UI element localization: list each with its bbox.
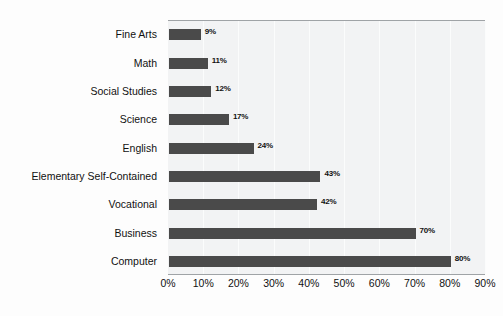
bar-row[interactable]: 24% [168, 136, 485, 162]
category-label: Math [134, 50, 157, 76]
plot-area: 9%11%12%17%24%43%42%70%80% [168, 20, 485, 275]
bar[interactable] [169, 199, 317, 210]
category-label: Business [114, 220, 157, 246]
bar-value-label: 80% [455, 254, 470, 263]
bar-row[interactable]: 80% [168, 249, 485, 275]
bar-row[interactable]: 12% [168, 79, 485, 105]
bar-value-label: 9% [205, 27, 216, 36]
x-tick-label: 70% [404, 277, 425, 289]
category-label: Science [120, 106, 157, 132]
x-tick-label: 0% [160, 277, 175, 289]
bar-row[interactable]: 43% [168, 164, 485, 190]
bar-value-label: 17% [233, 112, 248, 121]
x-tick-label: 20% [228, 277, 249, 289]
x-tick-label: 50% [334, 277, 355, 289]
x-tick-label: 90% [474, 277, 495, 289]
category-label: Fine Arts [116, 21, 157, 47]
bar[interactable] [169, 58, 208, 69]
bar-value-label: 70% [420, 226, 435, 235]
category-label: Vocational [109, 191, 157, 217]
bar-value-label: 12% [215, 84, 230, 93]
category-axis-labels: Fine ArtsMathSocial StudiesScienceEnglis… [0, 20, 163, 275]
bar-value-label: 42% [321, 197, 336, 206]
bar[interactable] [169, 228, 416, 239]
bar-row[interactable]: 70% [168, 221, 485, 247]
bar-row[interactable]: 11% [168, 51, 485, 77]
bar-value-label: 11% [212, 56, 227, 65]
category-label: English [123, 135, 157, 161]
x-tick-label: 60% [369, 277, 390, 289]
bar-value-label: 24% [258, 141, 273, 150]
bar[interactable] [169, 114, 229, 125]
bar[interactable] [169, 143, 254, 154]
bar[interactable] [169, 29, 201, 40]
x-tick-label: 40% [298, 277, 319, 289]
bar-value-label: 43% [324, 169, 339, 178]
gridline [485, 21, 486, 274]
bar[interactable] [169, 256, 451, 267]
category-label: Social Studies [90, 78, 157, 104]
bar[interactable] [169, 86, 211, 97]
bar-series: 9%11%12%17%24%43%42%70%80% [168, 21, 485, 274]
category-label: Computer [111, 248, 157, 274]
category-label: Elementary Self-Contained [32, 163, 157, 189]
bar-row[interactable]: 17% [168, 107, 485, 133]
bar-row[interactable]: 42% [168, 192, 485, 218]
bar-chart: 9%11%12%17%24%43%42%70%80% Fine ArtsMath… [0, 0, 503, 316]
bar[interactable] [169, 171, 320, 182]
x-tick-label: 10% [193, 277, 214, 289]
x-axis-tick-labels: 0%10%20%30%40%50%60%70%80%90% [168, 277, 485, 297]
x-tick-label: 30% [263, 277, 284, 289]
bar-row[interactable]: 9% [168, 22, 485, 48]
x-tick-label: 80% [439, 277, 460, 289]
